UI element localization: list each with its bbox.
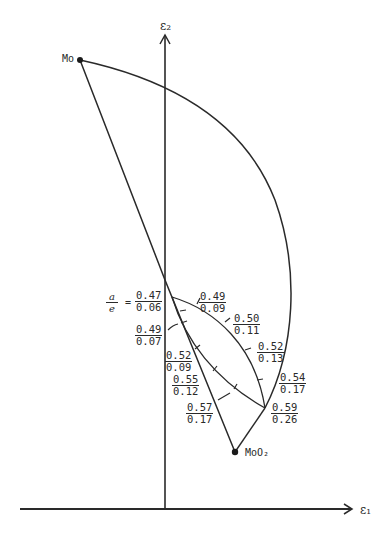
moo2-point	[232, 449, 238, 455]
mo-moo2-line	[80, 60, 235, 452]
annotation-7: 0.54 0.17	[279, 372, 306, 395]
annotation-1: 0.49 0.09	[199, 291, 226, 314]
mo-label: Mo	[62, 53, 74, 64]
diagram-canvas: ε₂ ε₁	[0, 0, 392, 549]
ratio-equals: =	[125, 297, 131, 308]
annotation-8: 0.57 0.17	[186, 402, 213, 425]
annotation-2: 0.50 0.11	[233, 313, 260, 336]
annotation-4: 0.52 0.13	[257, 341, 284, 364]
ratio-numerator: a	[106, 291, 118, 303]
axes	[20, 35, 352, 514]
annotation-9: 0.59 0.26	[271, 402, 298, 425]
moo2-label: MoO₂	[245, 447, 269, 458]
annotation-6: 0.55 0.12	[172, 374, 199, 397]
annotation-5: 0.52 0.09	[165, 350, 192, 373]
y-axis-label: ε₂	[160, 19, 171, 33]
mo-point	[77, 57, 83, 63]
junction-moo2-line	[235, 408, 265, 452]
x-axis-label: ε₁	[360, 503, 371, 517]
annotation-3: 0.49 0.07	[135, 324, 162, 347]
annotation-0: 0.47 0.06	[135, 290, 162, 313]
ratio-label: a e	[106, 291, 118, 314]
ratio-denominator: e	[106, 303, 118, 314]
